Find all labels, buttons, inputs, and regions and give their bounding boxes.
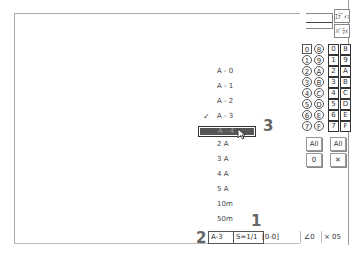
menu-item-label: A - 2: [217, 97, 233, 105]
circle-layer-c[interactable]: C: [314, 88, 324, 98]
multiplier-status[interactable]: × 05: [321, 231, 341, 243]
menu-item-a0[interactable]: A - 0: [200, 64, 280, 79]
circle-layer-a[interactable]: A: [314, 66, 324, 76]
layer-c[interactable]: C: [340, 88, 351, 99]
layer-4[interactable]: 4: [328, 88, 339, 99]
circle-layer-f[interactable]: F: [314, 121, 324, 131]
edit-button[interactable]: ｴﾃﾞｨｯﾄ: [334, 9, 350, 23]
menu-item-label: 3 A: [217, 155, 228, 163]
layer-5[interactable]: 5: [328, 99, 339, 110]
layer-2[interactable]: 2: [328, 66, 339, 77]
layer-f[interactable]: F: [340, 121, 351, 132]
circle-layer-1[interactable]: 1: [302, 55, 312, 65]
layer-e[interactable]: E: [340, 110, 351, 121]
layer-a[interactable]: A: [340, 66, 351, 77]
menu-item-label: 50m: [217, 215, 233, 223]
menu-item-label: A - 1: [217, 82, 233, 90]
menu-item-4a[interactable]: 4 A: [200, 167, 280, 182]
callout-3: 3: [263, 117, 273, 135]
circle-layer-6[interactable]: 6: [302, 110, 312, 120]
circle-layer-8[interactable]: 8: [314, 44, 324, 54]
layer-1[interactable]: 1: [328, 55, 339, 66]
menu-item-a1[interactable]: A - 1: [200, 79, 280, 94]
menu-item-label: A - 0: [217, 67, 233, 75]
line-style-preview[interactable]: [306, 13, 333, 29]
menu-item-label: 4 A: [217, 170, 228, 178]
layer-3[interactable]: 3: [328, 77, 339, 88]
param-button[interactable]: ﾊﾟﾗﾒ: [334, 24, 350, 38]
bracket-status: [0-0]: [262, 231, 279, 243]
angle-status[interactable]: ∠0: [300, 231, 315, 243]
circle-layer-0[interactable]: 0: [302, 44, 312, 54]
mouse-pointer-icon: [237, 128, 246, 143]
circle-layer-4[interactable]: 4: [302, 88, 312, 98]
circle-layer-d[interactable]: D: [314, 99, 324, 109]
circle-layer-9[interactable]: 9: [314, 55, 324, 65]
circle-all-button[interactable]: All: [306, 137, 322, 151]
circle-layer-7[interactable]: 7: [302, 121, 312, 131]
circle-zero-button[interactable]: 0: [306, 153, 322, 167]
circle-layer-b[interactable]: B: [314, 77, 324, 87]
menu-item-50m[interactable]: 50m: [200, 212, 280, 227]
circle-layer-2[interactable]: 2: [302, 66, 312, 76]
line-sample: [306, 22, 332, 23]
circle-layer-5[interactable]: 5: [302, 99, 312, 109]
scale-button[interactable]: S=1/1: [233, 231, 264, 244]
menu-item-label: 10m: [217, 200, 233, 208]
square-layer-grid: 0 8 1 9 2 A 3 B 4 C 5 D 6 E 7 F: [328, 44, 351, 132]
layer-b[interactable]: B: [340, 77, 351, 88]
square-clear-button[interactable]: ✕: [330, 153, 346, 167]
layer-8[interactable]: 8: [340, 44, 351, 55]
layer-7[interactable]: 7: [328, 121, 339, 132]
menu-item-10m[interactable]: 10m: [200, 197, 280, 212]
layer-0[interactable]: 0: [328, 44, 339, 55]
layer-dropdown-menu: A - 0 A - 1 A - 2 ✓A - 3 A - 4 2 A 3 A 4…: [200, 64, 280, 242]
square-all-button[interactable]: All: [330, 137, 346, 151]
layer-6[interactable]: 6: [328, 110, 339, 121]
circle-layer-e[interactable]: E: [314, 110, 324, 120]
callout-2: 2: [196, 229, 206, 247]
menu-item-a4[interactable]: A - 4: [198, 126, 256, 137]
menu-item-a2[interactable]: A - 2: [200, 94, 280, 109]
menu-item-label: A - 4: [199, 127, 234, 135]
layer-d[interactable]: D: [340, 99, 351, 110]
circle-layer-3[interactable]: 3: [302, 77, 312, 87]
callout-1: 1: [251, 212, 261, 230]
menu-item-5a[interactable]: 5 A: [200, 182, 280, 197]
circle-layer-grid: 0 8 1 9 2 A 3 B 4 C 5 D 6 E 7 F: [302, 44, 325, 132]
menu-item-label: 5 A: [217, 185, 228, 193]
menu-item-3a[interactable]: 3 A: [200, 152, 280, 167]
menu-item-label: 2 A: [217, 140, 228, 148]
menu-item-label: A - 3: [217, 112, 233, 120]
checkmark-icon: ✓: [203, 109, 210, 124]
layer-9[interactable]: 9: [340, 55, 351, 66]
